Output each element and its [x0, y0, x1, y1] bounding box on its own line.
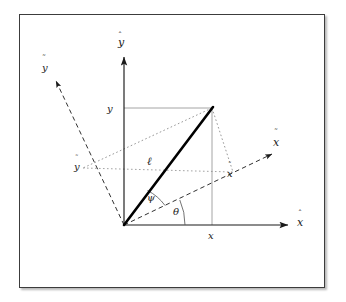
figure-border — [19, 14, 325, 288]
figure-canvas: ˆ y ˆ x ˜ y ˜ x y x ˜ y ˜ x — [0, 0, 346, 302]
